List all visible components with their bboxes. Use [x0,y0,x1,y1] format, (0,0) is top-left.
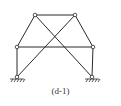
support-right [85,79,100,82]
joint-mid-right [91,45,95,49]
truss-members [17,15,93,77]
member-right-column [92,47,93,77]
member-diagonal-1 [35,15,92,77]
member-left-upper [17,15,35,47]
joint-support-left [15,75,19,79]
support-left [10,79,25,82]
truss-joints [15,13,95,79]
joint-mid-left [15,45,19,49]
figure-caption: (d-1) [0,86,121,96]
joint-support-right [90,75,94,79]
joint-top-right [73,13,77,17]
member-right-upper [75,15,93,47]
member-diagonal-2 [17,15,75,77]
joint-top-left [33,13,37,17]
